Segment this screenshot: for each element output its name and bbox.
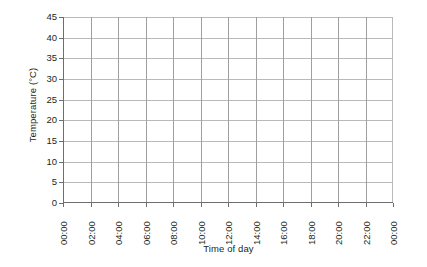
- x-tick-label-10: 20:00: [334, 211, 344, 245]
- x-tick-label-12: 00:00: [389, 211, 399, 245]
- x-axis-title: Time of day: [63, 243, 394, 254]
- plot-frame-right: [392, 17, 393, 203]
- y-tick-label-5: 5: [13, 177, 57, 187]
- y-tick-label-30: 30: [13, 74, 57, 84]
- x-tick-label-3: 06:00: [142, 211, 152, 245]
- gridline-v-0600: [146, 17, 147, 203]
- gridline-v-1800: [311, 17, 312, 203]
- x-tick-mark-3: [146, 203, 147, 207]
- x-tick-label-text-8: 16:00: [279, 211, 289, 245]
- y-tick-mark-35: [59, 58, 63, 59]
- x-tick-mark-7: [256, 203, 257, 207]
- y-tick-mark-40: [59, 38, 63, 39]
- x-tick-mark-9: [311, 203, 312, 207]
- x-tick-label-text-4: 08:00: [169, 211, 179, 245]
- x-tick-label-7: 14:00: [252, 211, 262, 245]
- x-tick-label-text-2: 04:00: [114, 211, 124, 245]
- x-tick-mark-0: [63, 203, 64, 207]
- gridline-v-1400: [256, 17, 257, 203]
- x-tick-label-1: 02:00: [87, 211, 97, 245]
- y-tick-mark-15: [59, 141, 63, 142]
- y-axis-line: [63, 17, 64, 203]
- gridline-v-2200: [366, 17, 367, 203]
- x-tick-label-6: 12:00: [224, 211, 234, 245]
- x-tick-label-0: 00:00: [59, 211, 69, 245]
- y-tick-mark-20: [59, 120, 63, 121]
- y-tick-mark-45: [59, 17, 63, 18]
- x-tick-label-text-1: 02:00: [87, 211, 97, 245]
- x-tick-label-text-0: 00:00: [59, 211, 69, 245]
- x-tick-label-text-12: 00:00: [389, 211, 399, 245]
- x-tick-label-text-11: 22:00: [362, 211, 372, 245]
- x-tick-label-5: 10:00: [197, 211, 207, 245]
- x-tick-mark-2: [118, 203, 119, 207]
- gridline-v-0200: [91, 17, 92, 203]
- y-tick-label-45: 45: [13, 12, 57, 22]
- y-tick-mark-5: [59, 182, 63, 183]
- y-tick-label-10: 10: [13, 157, 57, 167]
- x-tick-mark-6: [228, 203, 229, 207]
- x-tick-mark-11: [366, 203, 367, 207]
- x-tick-label-11: 22:00: [362, 211, 372, 245]
- x-tick-mark-4: [173, 203, 174, 207]
- x-tick-label-text-6: 12:00: [224, 211, 234, 245]
- x-tick-label-text-9: 18:00: [307, 211, 317, 245]
- gridline-v-1000: [201, 17, 202, 203]
- temperature-chart: Temperature (°C): [0, 0, 427, 267]
- y-tick-mark-25: [59, 100, 63, 101]
- x-tick-mark-1: [91, 203, 92, 207]
- y-tick-label-20: 20: [13, 115, 57, 125]
- gridline-v-2000: [338, 17, 339, 203]
- x-tick-label-9: 18:00: [307, 211, 317, 245]
- x-tick-label-8: 16:00: [279, 211, 289, 245]
- y-tick-label-0: 0: [13, 198, 57, 208]
- x-tick-mark-5: [201, 203, 202, 207]
- x-tick-label-text-3: 06:00: [142, 211, 152, 245]
- x-tick-mark-12: [393, 203, 394, 207]
- x-tick-label-2: 04:00: [114, 211, 124, 245]
- y-tick-label-35: 35: [13, 53, 57, 63]
- y-tick-mark-10: [59, 162, 63, 163]
- gridline-v-1200: [228, 17, 229, 203]
- y-tick-label-25: 25: [13, 95, 57, 105]
- x-tick-label-text-5: 10:00: [197, 211, 207, 245]
- x-tick-label-text-7: 14:00: [252, 211, 262, 245]
- x-tick-label-4: 08:00: [169, 211, 179, 245]
- gridline-v-0800: [173, 17, 174, 203]
- gridline-v-0400: [118, 17, 119, 203]
- y-tick-label-15: 15: [13, 136, 57, 146]
- plot-area: [63, 17, 393, 203]
- y-tick-label-40: 40: [13, 33, 57, 43]
- x-tick-label-text-10: 20:00: [334, 211, 344, 245]
- x-tick-mark-8: [283, 203, 284, 207]
- gridline-v-1600: [283, 17, 284, 203]
- x-tick-mark-10: [338, 203, 339, 207]
- y-tick-mark-30: [59, 79, 63, 80]
